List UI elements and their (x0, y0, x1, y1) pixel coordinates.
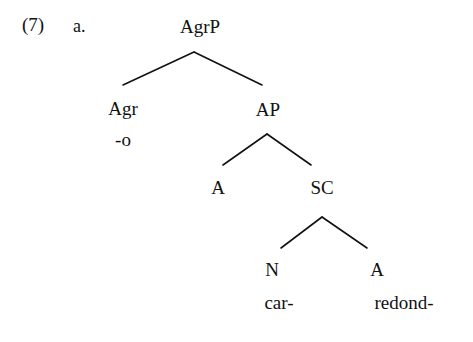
tree-node-agrp: AgrP (180, 16, 220, 38)
tree-node-n-t: car- (264, 292, 293, 314)
tree-branch-agrp-right (194, 52, 262, 85)
tree-node-agr: Agr (108, 98, 138, 120)
tree-branch-sc-right (322, 217, 367, 248)
tree-node-a-adj: A (370, 259, 384, 281)
tree-node-a-head: A (211, 177, 225, 199)
example-letter: a. (73, 15, 86, 37)
tree-node-a-adj-t: redond- (374, 292, 433, 314)
tree-branch-ap-left (223, 134, 267, 165)
tree-node-n: N (265, 259, 279, 281)
tree-branch-lines (0, 0, 473, 342)
tree-node-sc: SC (310, 177, 333, 199)
tree-branch-ap-right (267, 134, 311, 165)
tree-node-agr-t: -o (115, 129, 131, 151)
syntax-tree-figure: (7) a. AgrPAgr-oAPASCNcar-Aredond- (0, 0, 473, 342)
tree-branch-sc-left (281, 217, 322, 248)
tree-node-ap: AP (256, 99, 280, 121)
example-number: (7) (22, 14, 44, 36)
tree-branch-agrp-left (123, 52, 194, 85)
